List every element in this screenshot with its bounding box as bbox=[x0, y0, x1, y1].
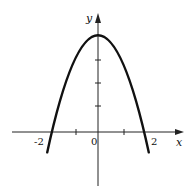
x-tick-label-pos2: 2 bbox=[151, 136, 157, 147]
y-axis-label: y bbox=[85, 12, 93, 25]
x-tick-label-zero: 0 bbox=[91, 136, 97, 147]
y-axis-arrow-icon bbox=[95, 13, 101, 23]
x-axis-arrow-icon bbox=[175, 129, 184, 135]
x-tick-label-neg2: -2 bbox=[34, 136, 44, 147]
x-axis-label: x bbox=[176, 136, 183, 149]
parabola-chart: y x -2 0 2 bbox=[0, 0, 195, 192]
